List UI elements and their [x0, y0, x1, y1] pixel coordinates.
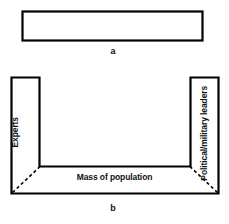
figure-container: a Experts Political/military leaders Mas… [0, 0, 229, 224]
panel-a-letter-label: a [103, 47, 123, 56]
panel-b-center-label: Mass of population [0, 173, 229, 182]
panel-b-letter-label: b [103, 204, 123, 213]
panel-a-rectangle [23, 12, 203, 41]
figure-line-art [0, 0, 229, 224]
panel-b-left-column-label: Experts [11, 99, 20, 165]
